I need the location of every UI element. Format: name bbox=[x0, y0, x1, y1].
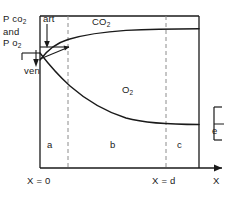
region-b-label: b bbox=[110, 140, 115, 150]
y-axis-label-po2: P o2 bbox=[3, 37, 26, 50]
plot-canvas bbox=[0, 0, 236, 200]
co2-curve bbox=[40, 29, 199, 60]
o2-curve bbox=[40, 53, 199, 125]
x-d-label: X = d bbox=[152, 176, 175, 186]
y-axis-label-and: and bbox=[3, 26, 26, 38]
x-axis-arrowhead bbox=[214, 165, 222, 172]
co2-curve-label: CO2 bbox=[92, 17, 110, 28]
y-axis-label-pco2: P co2 bbox=[3, 13, 26, 26]
region-a-label: a bbox=[47, 140, 52, 150]
o2-curve-label: O2 bbox=[122, 85, 133, 96]
venous-label: ven bbox=[24, 66, 40, 76]
e-bracket-label: e bbox=[212, 126, 217, 136]
y-axis-label: P co2 and P o2 bbox=[3, 13, 26, 50]
x-origin-label: X = 0 bbox=[27, 176, 50, 186]
region-c-label: c bbox=[177, 140, 182, 150]
x-axis-label: X bbox=[213, 176, 220, 186]
gas-exchange-diagram: P co2 and P o2 art ven CO2 O2 a b c X = … bbox=[0, 0, 236, 200]
arterial-label: art bbox=[43, 14, 55, 24]
